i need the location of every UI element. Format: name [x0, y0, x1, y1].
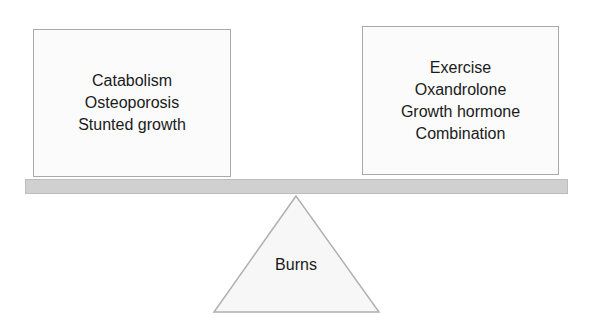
fulcrum-label: Burns [246, 256, 346, 274]
fulcrum-triangle-icon [0, 0, 594, 336]
